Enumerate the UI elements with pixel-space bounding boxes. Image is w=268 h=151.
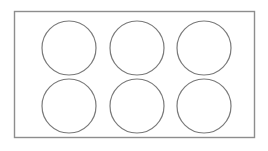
cavity-2 <box>110 21 164 75</box>
cavity-5 <box>110 79 164 133</box>
cavity-6 <box>177 79 231 133</box>
cavity-3 <box>177 21 231 75</box>
tray-diagram <box>0 0 268 151</box>
cavity-1 <box>42 21 96 75</box>
cavity-4 <box>42 79 96 133</box>
diagram-canvas <box>0 0 268 151</box>
